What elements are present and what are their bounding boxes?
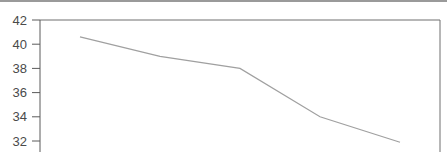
plot-frame xyxy=(40,20,440,152)
y-tick-label: 42 xyxy=(13,13,27,28)
line-chart: 424038363432 xyxy=(0,0,447,152)
y-tick-label: 40 xyxy=(13,37,27,52)
y-tick-label: 32 xyxy=(13,134,27,149)
y-tick-label: 34 xyxy=(13,109,27,124)
data-series xyxy=(80,37,400,142)
y-tick-label: 38 xyxy=(13,61,27,76)
y-tick-label: 36 xyxy=(13,85,27,100)
y-axis: 424038363432 xyxy=(13,13,40,149)
series-line xyxy=(80,37,400,142)
